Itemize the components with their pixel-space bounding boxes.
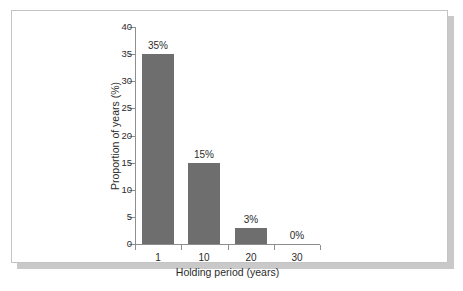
y-axis-tick-label: 15	[121, 156, 132, 169]
x-axis-title: Holding period (years)	[135, 266, 320, 278]
x-axis-tick-label: 20	[226, 251, 276, 265]
y-axis-tick-label: 20	[121, 129, 132, 142]
x-axis-tick	[274, 245, 275, 250]
bar	[188, 163, 220, 244]
y-axis-line	[135, 27, 136, 245]
y-axis-tick-label: 10	[121, 183, 132, 196]
bar-value-label: 3%	[226, 214, 276, 226]
y-axis-title: Proportion of years (%)	[108, 27, 122, 245]
x-axis-tick	[181, 245, 182, 250]
x-axis-tick-label: 1	[133, 251, 183, 265]
bar-value-label: 15%	[179, 149, 229, 161]
y-axis-tick-label: 30	[121, 74, 132, 87]
y-axis-tick-label: 0	[127, 237, 132, 250]
y-axis-tick-label: 35	[121, 47, 132, 60]
figure-root: 0510152025303540 35%15%3%0% 1102030 Hold…	[0, 0, 463, 291]
bar	[142, 54, 174, 244]
chart-frame: 0510152025303540 35%15%3%0% 1102030 Hold…	[11, 10, 448, 263]
x-axis-tick	[228, 245, 229, 250]
y-axis-tick-label: 40	[121, 20, 132, 33]
y-axis-tick-label: 5	[127, 210, 132, 223]
bar	[235, 228, 267, 244]
x-axis-tick-label: 30	[272, 251, 322, 265]
x-axis-tick-label: 10	[179, 251, 229, 265]
y-axis-tick-label: 25	[121, 101, 132, 114]
x-axis-tick	[135, 245, 136, 250]
bar-value-label: 0%	[272, 230, 322, 242]
x-axis-tick	[320, 245, 321, 250]
bar-value-label: 35%	[133, 40, 183, 52]
